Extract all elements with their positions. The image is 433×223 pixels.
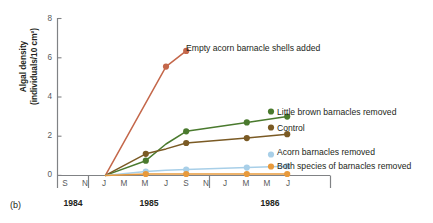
series-both-species-of-barnacles-removed	[105, 171, 290, 177]
series-label-both-removed: Both species of barnacles removed	[277, 161, 411, 171]
series-label-acorn-removed: Acorn barnacles removed	[277, 147, 375, 157]
figure-panel-b: Algal density (individuals/10 cm²) 8 6 4…	[0, 0, 433, 223]
x-tick-label-3: M	[117, 179, 131, 188]
x-tick-label-7: N	[199, 179, 213, 188]
data-point	[244, 171, 250, 177]
data-point	[183, 171, 189, 177]
x-tick-label-1: N	[78, 179, 92, 188]
series-label-control: Control	[277, 123, 305, 133]
year-label-1986: 1986	[240, 198, 300, 208]
x-tick-label-2: J	[97, 179, 111, 188]
legend-marker-acorn-barnacles-removed	[268, 151, 274, 157]
data-point	[163, 64, 169, 70]
x-tick-label-11: J	[281, 179, 295, 188]
data-point	[183, 128, 189, 134]
legend-marker-little-brown-barnacles-removed	[268, 108, 274, 114]
series-layer	[105, 48, 290, 177]
year-label-1984: 1984	[43, 198, 103, 208]
panel-label: (b)	[10, 200, 21, 210]
legend-marker-both-species-of-barnacles-removed	[268, 163, 274, 169]
year-label-1985: 1985	[119, 198, 179, 208]
x-tick-label-6: S	[179, 179, 193, 188]
x-tick-label-10: M	[260, 179, 274, 188]
x-tick-label-9: M	[239, 179, 253, 188]
series-little-brown-barnacles-removed	[105, 114, 290, 176]
data-point	[244, 165, 250, 171]
x-tick-label-0: S	[58, 179, 72, 188]
data-point	[244, 135, 250, 141]
data-point	[143, 171, 149, 177]
series-label-little-brown-removed: Little brown barnacles removed	[277, 107, 396, 117]
x-tick-label-4: M	[138, 179, 152, 188]
x-tick-label-5: J	[159, 179, 173, 188]
data-point	[244, 119, 250, 125]
data-point	[143, 158, 149, 164]
data-point	[284, 171, 290, 177]
legend-marker-control	[268, 124, 274, 130]
series-label-empty-shells: Empty acorn barnacle shells added	[186, 43, 320, 53]
data-point	[183, 140, 189, 146]
x-tick-label-8: J	[218, 179, 232, 188]
data-point	[143, 151, 149, 157]
